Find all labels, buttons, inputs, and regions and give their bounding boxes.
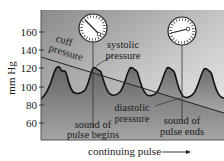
label-systolic-pressure: systolic pressure: [106, 39, 141, 61]
blood-pressure-diagram: 160 140 120 100 80 60 mm Hg cuff pressur…: [0, 0, 224, 161]
svg-text:sound of: sound of: [164, 115, 201, 126]
y-axis-title: mm Hg: [5, 61, 17, 95]
svg-text:pressure: pressure: [115, 113, 150, 124]
svg-text:pulse ends: pulse ends: [160, 126, 204, 137]
ytick-160: 160: [21, 26, 38, 38]
gauge-systolic-icon: [79, 14, 107, 42]
gauge-diastolic-icon: [168, 17, 196, 45]
label-sound-ends: sound of pulse ends: [160, 115, 204, 137]
x-axis-title: continuing pulse: [88, 145, 161, 157]
y-tick-labels: 160 140 120 100 80 60: [21, 26, 38, 129]
ytick-140: 140: [21, 44, 38, 56]
ytick-120: 120: [21, 62, 38, 74]
svg-text:pressure: pressure: [106, 50, 141, 61]
ytick-100: 100: [21, 81, 38, 93]
svg-text:diastolic: diastolic: [114, 102, 150, 113]
svg-text:pulse begins: pulse begins: [67, 129, 119, 140]
ytick-80: 80: [26, 99, 38, 111]
label-diastolic-pressure: diastolic pressure: [114, 102, 150, 124]
svg-text:systolic: systolic: [107, 39, 139, 50]
right-arrow-icon: [162, 150, 191, 154]
ytick-60: 60: [26, 117, 38, 129]
